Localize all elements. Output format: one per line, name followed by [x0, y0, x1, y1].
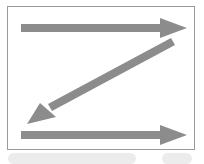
caption-badge-placeholder	[162, 153, 192, 164]
caption-bar-placeholder	[8, 153, 136, 164]
top-arrow-icon	[21, 18, 187, 38]
z-pattern-diagram	[0, 0, 204, 164]
bottom-arrow-icon	[21, 125, 187, 145]
diagonal-arrow-icon	[27, 38, 175, 124]
